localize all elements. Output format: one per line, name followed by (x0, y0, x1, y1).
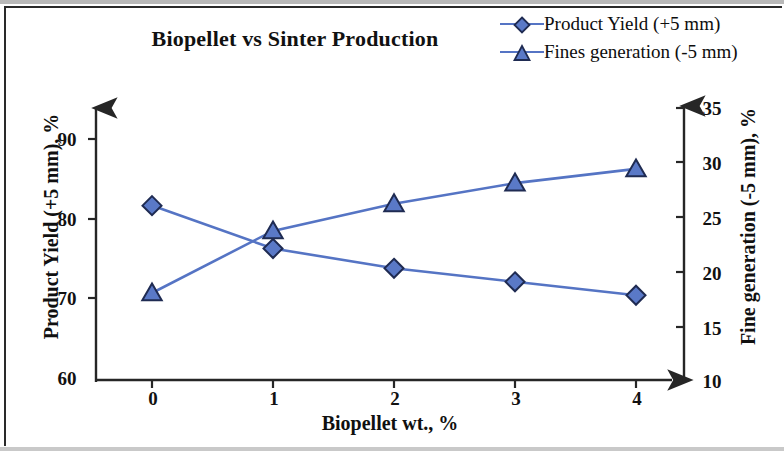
data-point-marker[interactable] (626, 159, 645, 176)
plot-area (0, 0, 784, 451)
data-point-marker[interactable] (506, 272, 525, 291)
data-point-marker[interactable] (385, 259, 404, 278)
data-point-marker[interactable] (142, 283, 161, 300)
data-point-marker[interactable] (627, 286, 646, 305)
chart-figure: Biopellet vs Sinter Production Product Y… (0, 0, 784, 451)
series-line-product-yield (152, 206, 636, 296)
data-point-marker[interactable] (143, 196, 162, 215)
series-layer (142, 159, 645, 304)
data-point-marker[interactable] (264, 239, 283, 258)
